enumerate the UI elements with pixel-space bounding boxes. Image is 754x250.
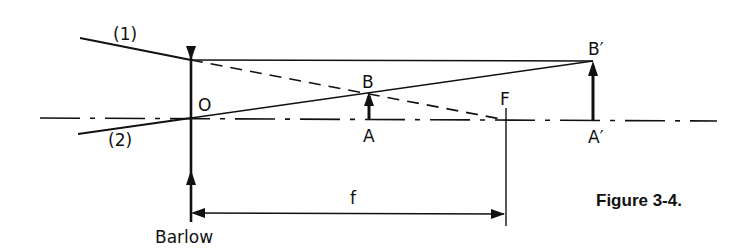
lens-top-arrowhead-icon	[186, 46, 196, 60]
ray-2-through-center	[191, 61, 593, 118]
focal-length-dimension	[193, 213, 504, 214]
lens-bottom-arrowhead-icon	[186, 170, 196, 185]
lens-center-label: O	[198, 95, 211, 115]
figure-caption: Figure 3-4.	[596, 191, 682, 210]
dimension-left-arrowhead-icon	[191, 208, 205, 218]
dimension-right-arrowhead-icon	[491, 209, 505, 219]
image-base-label: A′	[588, 127, 604, 147]
ray-2-incoming	[78, 118, 191, 134]
ray-diagram: (1) (2) O B A F B′ A′ f Barlow Figure 3-…	[0, 0, 754, 250]
image-arrowhead-icon	[588, 61, 598, 76]
ray-1-label: (1)	[113, 24, 137, 44]
focal-length-label: f	[350, 188, 357, 208]
image-top-label: B′	[588, 39, 604, 59]
optical-axis	[40, 118, 717, 121]
ray-2-label: (2)	[108, 130, 132, 150]
diagram-canvas: (1) (2) O B A F B′ A′ f Barlow Figure 3-…	[0, 0, 754, 250]
focal-point-label: F	[500, 89, 510, 109]
barlow-label: Barlow	[155, 227, 213, 247]
object-base-label: A	[363, 126, 375, 146]
ray-1-emerging	[191, 60, 593, 61]
object-top-label: B	[362, 72, 374, 92]
